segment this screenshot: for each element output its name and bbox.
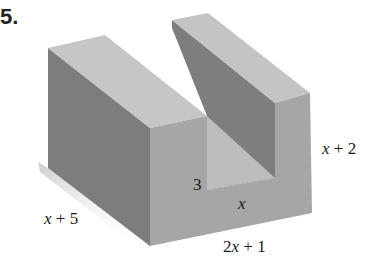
label-width: 2x + 1: [223, 237, 266, 257]
label-channel-depth: 3: [193, 175, 202, 195]
label-depth: x + 5: [44, 209, 78, 229]
label-height-rest: + 2: [330, 139, 357, 158]
var-x: x: [322, 139, 330, 158]
var-x: x: [238, 194, 246, 213]
label-width-rest: + 1: [239, 237, 266, 256]
label-depth-rest: + 5: [52, 209, 79, 228]
label-width-coef: 2: [223, 237, 232, 256]
var-x: x: [44, 209, 52, 228]
label-height: x + 2: [322, 139, 356, 159]
label-channel-width: x: [238, 194, 246, 214]
var-x: x: [232, 237, 240, 256]
